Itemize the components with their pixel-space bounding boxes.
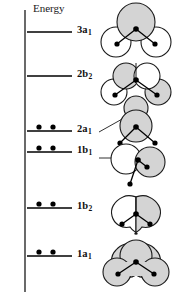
orbital-2a1 xyxy=(117,110,157,146)
mo-energy-diagram: Energy 3a1 2b2 2a1 1b1 1b2 1a1 xyxy=(0,0,175,300)
level-line-1b1 xyxy=(27,145,72,152)
oxygen-nucleus-dot xyxy=(133,77,139,83)
oxygen-nucleus-dot xyxy=(133,259,139,265)
electron-dot xyxy=(50,201,55,206)
hydrogen-nucleus-dot xyxy=(127,181,132,186)
level-line-2a1 xyxy=(27,124,72,131)
oxygen-nucleus-dot xyxy=(133,26,139,32)
electron-dot xyxy=(36,145,41,150)
level-line-1a1 xyxy=(27,249,72,256)
hydrogen-nucleus-dot xyxy=(119,221,124,226)
hydrogen-nucleus-dot xyxy=(152,41,157,46)
orbital-3a1 xyxy=(101,3,171,57)
orbital-1a1 xyxy=(103,240,169,286)
oxygen-nucleus-dot xyxy=(133,211,139,217)
hydrogen-nucleus-dot xyxy=(114,41,119,46)
electron-dot xyxy=(50,249,55,254)
electron-dot xyxy=(36,249,41,254)
electron-dot xyxy=(50,145,55,150)
level-line-1b2 xyxy=(27,201,72,208)
hydrogen-nucleus-dot xyxy=(144,164,149,169)
hydrogen-nucleus-dot xyxy=(112,92,117,97)
hydrogen-nucleus-dot xyxy=(115,271,120,276)
electron-dot xyxy=(50,124,55,129)
hydrogen-nucleus-dot xyxy=(147,221,152,226)
electron-dot xyxy=(36,124,41,129)
hydrogen-nucleus-dot xyxy=(152,140,157,145)
hydrogen-nucleus-dot xyxy=(151,271,156,276)
electron-dot xyxy=(36,201,41,206)
orbital-1b2 xyxy=(111,196,160,234)
diagram-graphics xyxy=(0,0,175,300)
oxygen-nucleus-dot xyxy=(135,157,141,163)
hydrogen-nucleus-dot xyxy=(154,92,159,97)
oxygen-nucleus-dot xyxy=(133,124,139,130)
orbital-1b1 xyxy=(111,144,165,187)
